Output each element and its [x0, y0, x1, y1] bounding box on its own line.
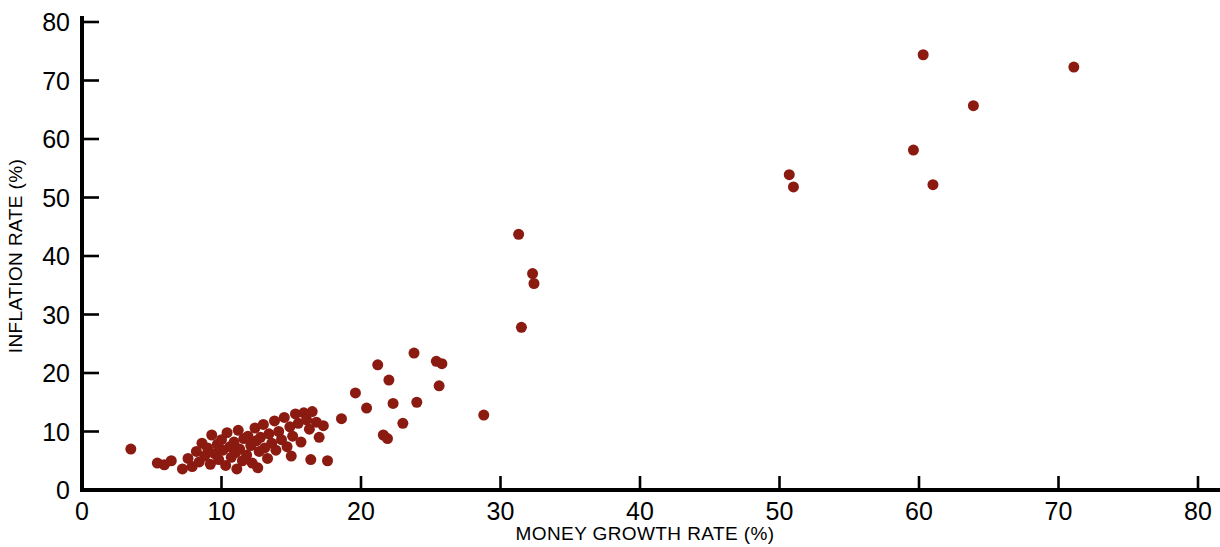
- data-point: [788, 181, 799, 192]
- x-axis-tick-label: 60: [905, 497, 933, 525]
- axis-ticks: [82, 22, 1198, 490]
- data-point: [322, 455, 333, 466]
- axis-titles: MONEY GROWTH RATE (%) INFLATION RATE (%): [5, 159, 774, 544]
- data-point: [222, 427, 233, 438]
- data-point: [166, 455, 177, 466]
- x-axis-tick-label: 20: [347, 497, 375, 525]
- data-point: [206, 430, 217, 441]
- y-axis-tick-label: 50: [42, 184, 70, 212]
- x-axis-tick-label: 0: [75, 497, 89, 525]
- data-point: [516, 322, 527, 333]
- y-axis-tick-label: 10: [42, 418, 70, 446]
- y-axis-tick-label: 30: [42, 301, 70, 329]
- data-point: [1068, 62, 1079, 73]
- y-axis-tick-label: 0: [56, 476, 70, 504]
- data-point: [282, 441, 293, 452]
- data-point: [286, 451, 297, 462]
- y-axis-tick-label: 70: [42, 67, 70, 95]
- axes: [82, 18, 1218, 490]
- data-point: [296, 437, 307, 448]
- x-axis-tick-label: 30: [487, 497, 515, 525]
- data-point: [177, 463, 188, 474]
- data-point: [411, 397, 422, 408]
- scatter-plot-figure: 0102030405060708001020304050607080 MONEY…: [0, 0, 1220, 547]
- data-point: [263, 428, 274, 439]
- data-point: [279, 412, 290, 423]
- data-point: [269, 415, 280, 426]
- data-point: [478, 410, 489, 421]
- data-point: [314, 432, 325, 443]
- data-point: [361, 403, 372, 414]
- x-axis-title: MONEY GROWTH RATE (%): [516, 523, 775, 544]
- data-point: [397, 418, 408, 429]
- y-axis-tick-label: 80: [42, 8, 70, 36]
- plot-canvas: 0102030405060708001020304050607080 MONEY…: [0, 0, 1220, 547]
- data-point: [350, 387, 361, 398]
- data-point: [336, 413, 347, 424]
- data-point: [383, 375, 394, 386]
- y-axis-tick-label: 40: [42, 242, 70, 270]
- x-axis-tick-label: 10: [208, 497, 236, 525]
- data-point: [307, 406, 318, 417]
- data-point: [252, 462, 263, 473]
- data-point: [528, 278, 539, 289]
- y-axis-title: INFLATION RATE (%): [5, 159, 26, 353]
- data-point: [318, 420, 329, 431]
- data-point: [927, 179, 938, 190]
- x-axis-tick-label: 40: [626, 497, 654, 525]
- data-point: [436, 358, 447, 369]
- y-axis-tick-label: 20: [42, 359, 70, 387]
- data-point: [513, 229, 524, 240]
- data-point: [918, 49, 929, 60]
- data-point: [527, 268, 538, 279]
- data-point: [305, 454, 316, 465]
- data-point: [258, 419, 269, 430]
- x-axis-tick-label: 80: [1184, 497, 1212, 525]
- data-point: [382, 433, 393, 444]
- data-point: [784, 169, 795, 180]
- data-point: [908, 145, 919, 156]
- data-point: [388, 398, 399, 409]
- data-point: [270, 445, 281, 456]
- x-axis-tick-label: 50: [766, 497, 794, 525]
- data-point: [968, 100, 979, 111]
- data-points: [125, 49, 1079, 474]
- data-point: [372, 359, 383, 370]
- data-point: [125, 444, 136, 455]
- data-point: [262, 453, 273, 464]
- data-point: [409, 348, 420, 359]
- y-axis-tick-label: 60: [42, 125, 70, 153]
- data-point: [434, 380, 445, 391]
- data-point: [231, 463, 242, 474]
- x-axis-tick-label: 70: [1045, 497, 1073, 525]
